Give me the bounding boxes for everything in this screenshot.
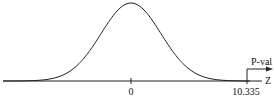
p-value-arrowhead xyxy=(266,67,273,72)
tick-label-zero: 0 xyxy=(129,86,134,97)
normal-distribution-diagram: 0 10.335 P-val Z xyxy=(0,0,274,101)
critical-value-label: 10.335 xyxy=(232,86,260,97)
normal-curve xyxy=(3,3,250,81)
axis-label-z: Z xyxy=(265,75,271,86)
p-value-label: P-val xyxy=(251,56,272,67)
